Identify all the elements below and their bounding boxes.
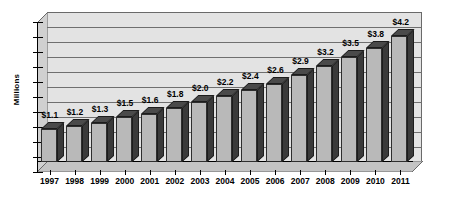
bar: $4.2 — [391, 36, 407, 162]
bar-side-face — [407, 30, 414, 162]
y-axis-tick — [33, 37, 43, 38]
y-axis-tick — [33, 67, 43, 68]
x-axis-label: 1998 — [62, 176, 87, 186]
x-axis-label: 2004 — [212, 176, 237, 186]
plot-area: $1.1$1.2$1.3$1.5$1.6$1.8$2.0$2.2$2.4$2.6… — [37, 12, 422, 172]
bar-value-label: $1.1 — [42, 110, 59, 120]
y-axis-tick — [33, 52, 43, 53]
x-axis-label: 2003 — [187, 176, 212, 186]
bar: $1.5 — [116, 117, 132, 162]
x-axis-label: 2007 — [288, 176, 313, 186]
bar-side-face — [132, 111, 139, 162]
bar-chart: Millions $1.1$1.2$1.3$1.5$1.6$1.8$2.0$2.… — [0, 0, 452, 205]
bar-side-face — [282, 78, 289, 162]
bar-value-label: $1.8 — [167, 89, 184, 99]
plot-floor-depth — [37, 161, 423, 172]
bar-front-face — [41, 129, 57, 162]
x-axis-label: 2001 — [137, 176, 162, 186]
bar-front-face — [66, 126, 82, 162]
x-axis-tick — [125, 170, 126, 175]
y-axis-title: Millions — [12, 60, 21, 120]
x-axis-label: 1997 — [37, 176, 62, 186]
x-axis-label: 2008 — [313, 176, 338, 186]
bar: $3.5 — [341, 57, 357, 162]
bar-value-label: $2.0 — [192, 83, 209, 93]
gridline — [47, 27, 422, 28]
bar-side-face — [307, 69, 314, 162]
x-axis-label: 2002 — [162, 176, 187, 186]
x-axis-label: 2009 — [338, 176, 363, 186]
bar-side-face — [157, 108, 164, 162]
bar-front-face — [341, 57, 357, 162]
bar: $3.8 — [366, 48, 382, 162]
bar-front-face — [116, 117, 132, 162]
bar-side-face — [257, 84, 264, 162]
bar-side-face — [332, 60, 339, 162]
bar-front-face — [166, 108, 182, 162]
bar: $1.6 — [141, 114, 157, 162]
bar: $3.2 — [316, 66, 332, 162]
bar-value-label: $1.2 — [67, 107, 84, 117]
bar: $1.3 — [91, 123, 107, 162]
bar-value-label: $2.4 — [242, 71, 259, 81]
x-axis-label: 2000 — [112, 176, 137, 186]
x-axis-label: 2006 — [263, 176, 288, 186]
bar-value-label: $3.5 — [342, 38, 359, 48]
bar-front-face — [216, 96, 232, 162]
y-axis-line — [37, 22, 38, 173]
bar-front-face — [316, 66, 332, 162]
y-axis-tick — [33, 97, 43, 98]
bar-side-face — [107, 117, 114, 162]
y-axis-tick — [33, 82, 43, 83]
gridline — [47, 42, 422, 43]
bar-front-face — [91, 123, 107, 162]
bar-front-face — [241, 90, 257, 162]
bar-side-face — [232, 90, 239, 162]
x-axis-label: 2011 — [388, 176, 413, 186]
x-axis-tick — [75, 170, 76, 175]
x-axis-tick — [175, 170, 176, 175]
x-axis-tick — [200, 170, 201, 175]
x-axis-labels: 1997199819992000200120022003200420052006… — [37, 176, 413, 196]
bar-side-face — [207, 96, 214, 162]
bar-front-face — [366, 48, 382, 162]
x-axis-tick — [225, 170, 226, 175]
x-axis-label: 2005 — [238, 176, 263, 186]
bar-value-label: $1.3 — [92, 104, 109, 114]
x-axis-tick — [50, 170, 51, 175]
y-axis-tick — [33, 22, 43, 23]
bar-value-label: $2.9 — [292, 56, 309, 66]
bar-value-label: $3.8 — [367, 29, 384, 39]
bar-side-face — [182, 102, 189, 162]
x-axis-tick — [325, 170, 326, 175]
bar-side-face — [382, 42, 389, 162]
x-axis-tick — [400, 170, 401, 175]
bar-front-face — [291, 75, 307, 162]
bar-side-face — [357, 51, 364, 162]
bar-front-face — [191, 102, 207, 162]
bar-front-face — [266, 84, 282, 162]
x-axis-tick — [250, 170, 251, 175]
x-axis-label: 2010 — [363, 176, 388, 186]
bar: $2.2 — [216, 96, 232, 162]
bar: $2.6 — [266, 84, 282, 162]
x-axis-label: 1999 — [87, 176, 112, 186]
y-axis-tick — [33, 172, 43, 173]
bar-value-label: $1.6 — [142, 95, 159, 105]
bar-side-face — [82, 120, 89, 162]
bar-front-face — [391, 36, 407, 162]
bar-value-label: $4.2 — [393, 17, 410, 27]
bar-front-face — [141, 114, 157, 162]
bar: $1.1 — [41, 129, 57, 162]
bar-value-label: $2.6 — [267, 65, 284, 75]
bar: $1.8 — [166, 108, 182, 162]
x-axis-tick — [275, 170, 276, 175]
x-axis-tick — [300, 170, 301, 175]
x-axis-tick — [350, 170, 351, 175]
x-axis-tick — [375, 170, 376, 175]
bar-value-label: $1.5 — [117, 98, 134, 108]
x-axis-tick — [100, 170, 101, 175]
bar-value-label: $2.2 — [217, 77, 234, 87]
bar-value-label: $3.2 — [317, 47, 334, 57]
x-axis-tick — [150, 170, 151, 175]
